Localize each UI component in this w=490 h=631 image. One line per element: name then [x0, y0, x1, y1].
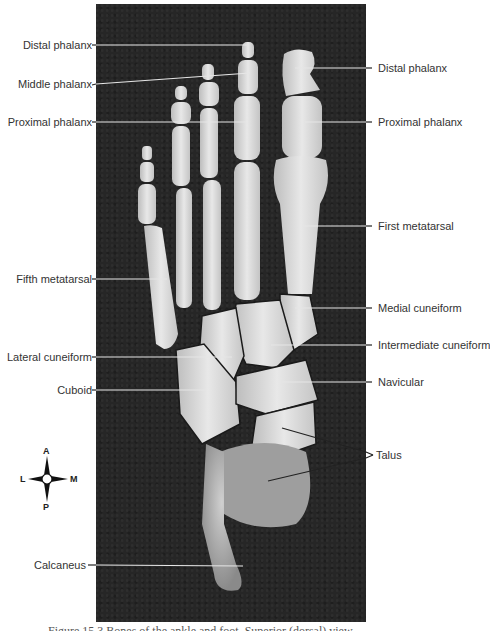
tarsal-bones: [176, 294, 318, 458]
compass-anterior: A: [43, 446, 50, 456]
label-calcaneus: Calcaneus: [34, 559, 86, 572]
label-intermediate-cuneiform: Intermediate cuneiform: [378, 339, 490, 352]
orientation-compass: A P L M: [12, 446, 82, 512]
compass-lateral: L: [20, 474, 26, 484]
great-toe: [274, 49, 328, 294]
third-toe: [199, 64, 221, 310]
label-middle-phalanx: Middle phalanx: [18, 78, 92, 91]
label-proximal-phalanx-right: Proximal phalanx: [378, 116, 462, 129]
label-distal-phalanx-left: Distal phalanx: [23, 39, 92, 52]
label-cuboid: Cuboid: [57, 384, 92, 397]
label-fifth-metatarsal: Fifth metatarsal: [16, 273, 92, 286]
label-talus: Talus: [376, 449, 402, 462]
label-first-metatarsal: First metatarsal: [378, 220, 454, 233]
figure-caption: Figure 15.3 Bones of the ankle and foot.…: [48, 624, 355, 631]
compass-medial: M: [70, 474, 78, 484]
label-medial-cuneiform: Medial cuneiform: [378, 302, 462, 315]
foot-skeleton-illustration: [96, 4, 366, 622]
hindfoot-bones: [202, 443, 310, 591]
label-proximal-phalanx-left: Proximal phalanx: [8, 116, 92, 129]
label-navicular: Navicular: [378, 376, 424, 389]
second-toe: [234, 42, 260, 300]
foot-bones-photo: [96, 4, 366, 622]
label-lateral-cuneiform: Lateral cuneiform: [7, 351, 92, 364]
compass-posterior: P: [43, 502, 49, 512]
label-distal-phalanx-right: Distal phalanx: [378, 62, 447, 75]
fourth-toe: [171, 86, 192, 308]
